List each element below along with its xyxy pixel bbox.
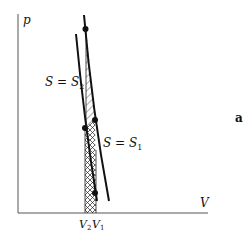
panel-label: a: [235, 111, 243, 125]
s1-label: S = S1: [103, 136, 142, 152]
x-axis-label: V: [200, 196, 210, 210]
v2-tick-label: V2: [79, 218, 91, 232]
state-point-bottom: [92, 190, 98, 196]
y-axis-label: p: [23, 13, 31, 27]
s2-label: S = S2: [45, 75, 84, 91]
state-point-s2-mid: [82, 125, 88, 131]
state-point-s1-mid: [92, 117, 98, 123]
v1-tick-label: V1: [92, 218, 104, 232]
pv-diagram: p V S = S2 S = S1 V2 V1 a: [0, 0, 251, 240]
state-point-top: [83, 26, 89, 32]
